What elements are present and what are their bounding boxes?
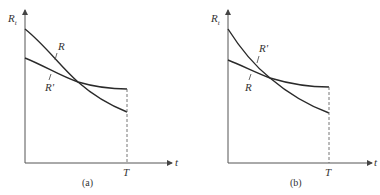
curve-flat-label: R <box>244 81 252 93</box>
curve-flat <box>228 60 329 87</box>
curve-steep-label: R' <box>258 42 269 54</box>
curve-steep <box>228 29 329 113</box>
y-axis-label: Rt <box>210 12 221 27</box>
figure-canvas: Rt t T R R' (a) Rt t T R' R (b) <box>0 0 380 195</box>
curve-steep <box>25 29 127 112</box>
x-axis-label: t <box>175 156 179 168</box>
curve-flat-leader <box>49 74 51 80</box>
t-marker-label: T <box>325 166 332 178</box>
panel-a: Rt t T R R' (a) <box>7 10 179 189</box>
curve-flat <box>25 58 127 89</box>
panel-b: Rt t T R' R (b) <box>210 10 378 189</box>
curve-steep-label: R <box>57 40 65 52</box>
panel-caption: (a) <box>82 177 93 189</box>
curve-steep-leader <box>257 56 259 63</box>
x-axis-label: t <box>374 156 378 168</box>
curve-flat-leader <box>249 74 251 80</box>
curve-flat-label: R' <box>44 81 55 93</box>
y-axis-label: Rt <box>7 12 18 27</box>
panel-caption: (b) <box>290 177 302 189</box>
t-marker-label: T <box>123 166 130 178</box>
